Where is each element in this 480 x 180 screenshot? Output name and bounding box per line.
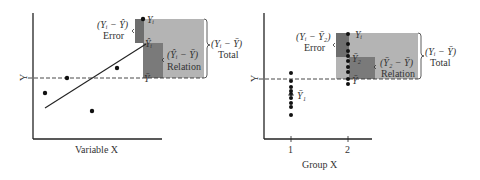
total-label: Total bbox=[430, 57, 451, 68]
error-label: Error bbox=[103, 30, 125, 41]
left-panel: Y Variable X Yᵢ Ŷᵢ Ȳ (Yᵢ − Ŷ) Error (Ŷᵢ … bbox=[18, 13, 243, 155]
error-bracket-icon bbox=[132, 29, 134, 33]
x-tick-1-label: 1 bbox=[288, 144, 293, 155]
error-box bbox=[135, 19, 144, 43]
data-point bbox=[90, 109, 94, 113]
data-point bbox=[43, 91, 47, 95]
relation-expression: (Ŷᵢ − Ȳ) bbox=[167, 49, 199, 61]
yhat-label: Ŷᵢ bbox=[145, 38, 153, 49]
diagram-canvas: Y Variable X Yᵢ Ŷᵢ Ȳ (Yᵢ − Ŷ) Error (Ŷᵢ … bbox=[0, 0, 480, 180]
total-label: Total bbox=[218, 49, 239, 60]
regression-line bbox=[45, 44, 146, 108]
total-bracket-icon bbox=[204, 19, 210, 78]
group2-mean-label: Ȳ₂ bbox=[352, 53, 362, 64]
yi-label: Yᵢ bbox=[147, 14, 155, 25]
relation-label: Relation bbox=[381, 68, 415, 79]
total-bracket-icon bbox=[418, 33, 424, 79]
x-tick-2-label: 2 bbox=[345, 144, 350, 155]
y-axis-label: Y bbox=[249, 75, 260, 82]
x-axis-label: Group X bbox=[302, 159, 338, 170]
right-panel: Y 1 2 Group X Yᵢ Ȳ₂ Ȳ Ȳ₁ (Yᵢ − Ȳ₂) Error… bbox=[249, 13, 457, 170]
data-point bbox=[65, 76, 69, 80]
data-point-yi bbox=[141, 17, 145, 21]
data-point bbox=[115, 66, 119, 70]
error-label: Error bbox=[304, 42, 326, 53]
y-axis-label: Y bbox=[18, 74, 29, 81]
x-axis-label: Variable X bbox=[75, 144, 119, 155]
error-bracket-icon bbox=[333, 43, 335, 47]
relation-label: Relation bbox=[167, 61, 201, 72]
yi-label: Yᵢ bbox=[355, 29, 363, 40]
group-1-points bbox=[289, 71, 293, 117]
group1-mean-label: Ȳ₁ bbox=[297, 90, 306, 101]
